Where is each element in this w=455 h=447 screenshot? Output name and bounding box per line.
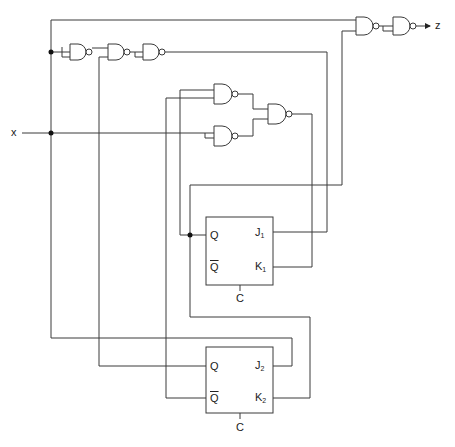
- junction-dot: [188, 233, 193, 238]
- wire-g3-j1: [165, 52, 327, 232]
- ff2-qbar-label: Q: [210, 393, 219, 404]
- ff2-j-label: J2: [255, 360, 264, 372]
- input-x-label: x: [11, 127, 17, 138]
- ff2-j-sub: 2: [261, 365, 265, 372]
- nand-gate-gf: [393, 17, 416, 35]
- ff1-k-sub: 1: [262, 266, 266, 273]
- wire-gd-k1: [273, 114, 312, 267]
- nand-gate-ge: [356, 17, 379, 35]
- junction-dot: [49, 131, 54, 136]
- ff2-k-sub: 2: [262, 397, 266, 404]
- ff1-clock-label: C: [236, 293, 244, 304]
- nand-gate-g1: [70, 44, 92, 60]
- wire-gb-tie: [205, 133, 214, 138]
- wire-left-bus: [51, 52, 292, 366]
- wire-ge-gf: [378, 26, 393, 31]
- circuit-diagram: [0, 0, 455, 447]
- nand-gate-ga: [214, 84, 238, 104]
- wire-top-loop: [51, 20, 356, 52]
- nand-gate-gd: [268, 104, 292, 124]
- ff2-k-label: K2: [255, 392, 266, 404]
- wire-q1-ga: [180, 90, 214, 235]
- ff2-clock-label: C: [236, 422, 244, 433]
- ff1-k-label: K1: [255, 261, 266, 273]
- wire-g2-g3: [130, 52, 143, 57]
- nand-gate-g3: [143, 44, 165, 60]
- ff1-j-sub: 1: [261, 232, 265, 239]
- wire-ga-gd: [236, 94, 268, 109]
- ff2-q-label: Q: [210, 361, 219, 372]
- ff1-j-label: J1: [255, 227, 264, 239]
- ff1-q-label: Q: [210, 230, 219, 241]
- nand-gate-g2: [108, 44, 130, 60]
- ff1-qbar-label: Q: [210, 262, 219, 273]
- wire-gb-gd: [236, 119, 268, 136]
- output-z-label: z: [435, 20, 441, 31]
- nand-gate-gb: [214, 126, 238, 146]
- junction-dot: [49, 50, 54, 55]
